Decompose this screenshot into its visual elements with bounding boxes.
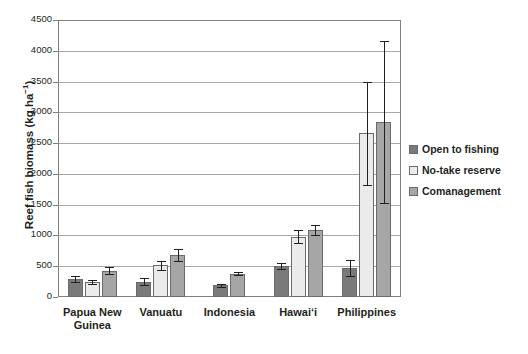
error-bar-cap-lower xyxy=(277,269,286,270)
x-axis-tick-label: Indonesia xyxy=(195,306,264,319)
error-bar-cap-upper xyxy=(217,284,226,285)
error-bar-cap-upper xyxy=(157,261,166,262)
error-bar-cap-upper xyxy=(363,82,372,83)
y-axis-tick-label: 2000 xyxy=(8,167,52,178)
x-axis-tick-label-line: Indonesia xyxy=(195,306,264,319)
error-bar xyxy=(367,82,368,185)
bar-group xyxy=(332,20,401,297)
error-bar-cap-upper xyxy=(234,272,243,273)
error-bar xyxy=(384,41,385,204)
x-axis-tick-label-line: Hawaiʻi xyxy=(264,306,333,319)
figure: Reef fish biomass (kg ha−1) 050010001500… xyxy=(0,0,528,354)
x-axis-tick-label-line: Philippines xyxy=(332,306,401,319)
error-bar-cap-lower xyxy=(71,282,80,283)
error-bar xyxy=(109,267,110,274)
y-axis-tick-mark xyxy=(53,297,58,298)
error-bar-cap-lower xyxy=(294,243,303,244)
error-bar-cap-upper xyxy=(346,260,355,261)
x-axis-tick-label: Philippines xyxy=(332,306,401,319)
error-bar-cap-lower xyxy=(105,274,114,275)
legend: Open to fishingNo-take reserveComanageme… xyxy=(409,143,527,206)
error-bar-cap-lower xyxy=(140,285,149,286)
error-bar-cap-lower xyxy=(363,185,372,186)
error-bar-cap-lower xyxy=(311,235,320,236)
bar xyxy=(291,237,306,297)
error-bar xyxy=(178,249,179,261)
error-bar-cap-lower xyxy=(346,276,355,277)
y-axis-tick-label: 2500 xyxy=(8,136,52,147)
x-axis-tick-label: Vanuatu xyxy=(127,306,196,319)
error-bar xyxy=(315,225,316,235)
error-bar xyxy=(144,278,145,285)
error-bar-cap-upper xyxy=(311,225,320,226)
y-axis-title-exponent: −1 xyxy=(21,85,30,94)
error-bar-cap-lower xyxy=(174,261,183,262)
x-axis-tick-label-line: Papua New xyxy=(58,306,127,319)
bar-group xyxy=(58,20,127,297)
bar xyxy=(308,230,323,297)
bar-group xyxy=(195,20,264,297)
y-axis-tick-label: 0 xyxy=(8,290,52,301)
bar xyxy=(230,274,245,297)
bar-group xyxy=(264,20,333,297)
bar-group xyxy=(127,20,196,297)
legend-item: Open to fishing xyxy=(409,143,527,155)
legend-label: Comanagement xyxy=(422,185,501,197)
y-axis-tick-label: 1000 xyxy=(8,228,52,239)
legend-item: Comanagement xyxy=(409,185,527,197)
error-bar-cap-upper xyxy=(294,230,303,231)
legend-item: No-take reserve xyxy=(409,164,527,176)
legend-swatch-icon xyxy=(409,145,418,154)
y-axis-tick-label: 500 xyxy=(8,259,52,270)
error-bar-cap-upper xyxy=(140,278,149,279)
error-bar-cap-lower xyxy=(380,203,389,204)
error-bar-cap-lower xyxy=(157,270,166,271)
error-bar-cap-upper xyxy=(88,280,97,281)
legend-label: No-take reserve xyxy=(422,164,501,176)
error-bar-cap-upper xyxy=(277,263,286,264)
error-bar xyxy=(161,261,162,270)
y-axis-tick-label: 4500 xyxy=(8,13,52,24)
bar xyxy=(274,266,289,297)
error-bar-cap-upper xyxy=(380,41,389,42)
error-bar-cap-lower xyxy=(217,287,226,288)
y-axis-tick-label: 1500 xyxy=(8,198,52,209)
error-bar xyxy=(350,260,351,276)
y-axis-tick-label: 3000 xyxy=(8,105,52,116)
x-axis-tick-label-line: Vanuatu xyxy=(127,306,196,319)
y-axis-tick-label: 4000 xyxy=(8,44,52,55)
error-bar-cap-upper xyxy=(71,276,80,277)
legend-label: Open to fishing xyxy=(422,143,499,155)
legend-swatch-icon xyxy=(409,166,418,175)
x-axis-tick-label-line: Guinea xyxy=(58,319,127,332)
error-bar-cap-lower xyxy=(234,275,243,276)
x-axis-tick-label: Papua NewGuinea xyxy=(58,306,127,332)
legend-swatch-icon xyxy=(409,187,418,196)
x-axis-tick-label: Hawaiʻi xyxy=(264,306,333,319)
error-bar-cap-upper xyxy=(105,267,114,268)
error-bar-cap-upper xyxy=(174,249,183,250)
bars-layer xyxy=(58,20,401,297)
y-axis-tick-label: 3500 xyxy=(8,75,52,86)
error-bar xyxy=(298,230,299,244)
error-bar-cap-lower xyxy=(88,284,97,285)
x-axis-tick-labels: Papua NewGuineaVanuatuIndonesiaHawaiʻiPh… xyxy=(58,300,401,350)
